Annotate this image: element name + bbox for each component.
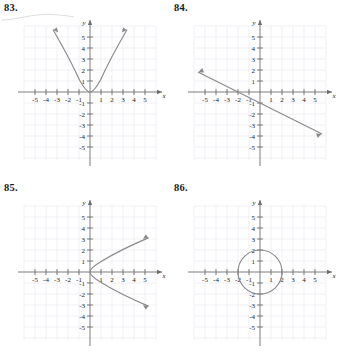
y-tick-label: -1 xyxy=(79,280,85,288)
x-tick-label: -5 xyxy=(202,276,208,284)
x-tick-label: -3 xyxy=(224,276,230,284)
y-tick-label: -5 xyxy=(79,144,85,152)
plot-83: -5 -4 -3 -2 -1 1 2 3 4 5 5 4 3 2 1 xyxy=(12,14,168,172)
exercise-panel-85: 85. xyxy=(0,180,170,358)
y-tick-label: -3 xyxy=(79,302,85,310)
x-tick-label: -3 xyxy=(54,276,60,284)
y-tick-label: 4 xyxy=(82,45,86,53)
panel-number-86: 86. xyxy=(174,182,188,193)
y-tick-label: -4 xyxy=(249,133,255,141)
x-axis-arrow xyxy=(327,90,332,94)
axes xyxy=(188,200,332,346)
x-tick-label: 1 xyxy=(269,96,273,104)
y-axis-arrow xyxy=(258,20,262,25)
x-tick-label: 3 xyxy=(291,276,295,284)
panel-number-84: 84. xyxy=(174,2,188,13)
x-tick-label: -3 xyxy=(224,96,230,104)
y-axis-arrow xyxy=(88,20,92,25)
coordinate-plane-85: -5 -4 -3 -2 -1 1 2 3 4 5 5 4 3 2 1 xyxy=(12,194,168,352)
panel-number-83: 83. xyxy=(4,2,18,13)
y-tick-labels: 5 4 3 2 1 -1 -2 -3 -4 -5 xyxy=(249,214,255,332)
panel-number-85: 85. xyxy=(4,182,18,193)
y-tick-label: -3 xyxy=(79,122,85,130)
x-axis-arrow xyxy=(157,90,162,94)
y-tick-label: 3 xyxy=(252,236,256,244)
coordinate-plane-83: -5 -4 -3 -2 -1 1 2 3 4 5 5 4 3 2 1 xyxy=(12,14,168,172)
x-tick-label: 3 xyxy=(121,276,125,284)
y-tick-label: -5 xyxy=(79,324,85,332)
y-tick-label: 3 xyxy=(82,56,86,64)
y-tick-label: 1 xyxy=(252,78,256,86)
coordinate-plane-84: -5 -4 -3 -2 -1 1 2 3 4 5 5 4 3 2 1 xyxy=(182,14,338,172)
y-tick-label: -3 xyxy=(249,122,255,130)
y-tick-label: 2 xyxy=(252,67,256,75)
x-tick-label: -4 xyxy=(43,276,49,284)
y-tick-label: 5 xyxy=(82,34,86,42)
y-tick-label: 2 xyxy=(82,247,86,255)
x-tick-label: -4 xyxy=(43,96,49,104)
x-tick-label: -2 xyxy=(235,96,241,104)
y-tick-label: 4 xyxy=(82,225,86,233)
x-axis-label: x xyxy=(161,92,166,100)
y-tick-labels: 5 4 3 2 1 -1 -2 -3 -4 -5 xyxy=(249,34,255,152)
y-tick-label: -4 xyxy=(79,313,85,321)
plot-84: -5 -4 -3 -2 -1 1 2 3 4 5 5 4 3 2 1 xyxy=(182,14,338,172)
x-tick-label: -5 xyxy=(32,96,38,104)
x-tick-label: 1 xyxy=(99,96,103,104)
x-tick-label: 1 xyxy=(269,276,273,284)
x-tick-label: 3 xyxy=(121,96,125,104)
x-tick-label: 2 xyxy=(110,96,114,104)
y-tick-label: 5 xyxy=(252,34,256,42)
y-tick-label: -5 xyxy=(249,324,255,332)
x-tick-label: 2 xyxy=(280,96,284,104)
x-axis-label: x xyxy=(331,92,336,100)
exercise-panel-86: 86. xyxy=(170,180,340,358)
coordinate-plane-86: -5 -4 -3 -2 -1 1 2 3 4 5 5 4 3 2 1 xyxy=(182,194,338,352)
x-tick-label: 4 xyxy=(302,276,306,284)
x-tick-label: 3 xyxy=(291,96,295,104)
y-tick-label: 5 xyxy=(252,214,256,222)
x-tick-label: -2 xyxy=(65,96,71,104)
x-tick-label: 2 xyxy=(110,276,114,284)
x-tick-label: 5 xyxy=(143,276,147,284)
x-tick-label: -4 xyxy=(213,276,219,284)
y-axis-arrow xyxy=(258,200,262,205)
x-tick-label: 5 xyxy=(143,96,147,104)
y-tick-label: -4 xyxy=(79,133,85,141)
exercise-figure-page: 83. xyxy=(0,0,341,358)
y-tick-label: 1 xyxy=(82,258,86,266)
x-tick-label: 5 xyxy=(313,276,317,284)
y-tick-label: 3 xyxy=(252,56,256,64)
y-tick-label: -4 xyxy=(249,313,255,321)
y-tick-labels: 5 4 3 2 1 -1 -2 -3 -4 -5 xyxy=(79,214,85,332)
y-tick-labels: 5 4 3 2 1 -1 -2 -3 -4 -5 xyxy=(79,34,85,152)
x-axis-label: x xyxy=(331,272,336,280)
axes xyxy=(18,20,162,166)
y-tick-label: -1 xyxy=(249,280,255,288)
x-axis-arrow xyxy=(327,270,332,274)
x-tick-label: -5 xyxy=(32,276,38,284)
x-tick-label: 4 xyxy=(132,276,136,284)
y-tick-label: -2 xyxy=(79,111,85,119)
y-tick-label: 4 xyxy=(252,225,256,233)
y-tick-label: -2 xyxy=(249,111,255,119)
x-tick-label: -3 xyxy=(54,96,60,104)
y-tick-label: 3 xyxy=(82,236,86,244)
plot-86: -5 -4 -3 -2 -1 1 2 3 4 5 5 4 3 2 1 xyxy=(182,194,338,352)
x-tick-label: 5 xyxy=(313,96,317,104)
x-axis-arrow xyxy=(157,270,162,274)
plot-85: -5 -4 -3 -2 -1 1 2 3 4 5 5 4 3 2 1 xyxy=(12,194,168,352)
y-tick-label: 2 xyxy=(82,67,86,75)
y-tick-label: 4 xyxy=(252,45,256,53)
y-tick-label: -2 xyxy=(79,291,85,299)
y-axis-arrow xyxy=(88,200,92,205)
x-tick-label: -4 xyxy=(213,96,219,104)
y-tick-label: -1 xyxy=(79,100,85,108)
exercise-panel-83: 83. xyxy=(0,0,170,178)
x-tick-label: 4 xyxy=(132,96,136,104)
y-tick-label: 1 xyxy=(252,258,256,266)
exercise-panel-84: 84. xyxy=(170,0,340,178)
y-tick-label: 5 xyxy=(82,214,86,222)
y-tick-label: -3 xyxy=(249,302,255,310)
x-tick-label: 4 xyxy=(302,96,306,104)
